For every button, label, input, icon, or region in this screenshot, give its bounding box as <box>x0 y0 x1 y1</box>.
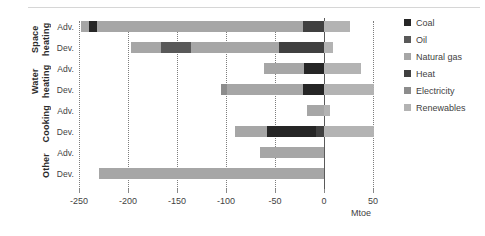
bar-segment <box>227 84 303 95</box>
bar-segment <box>161 42 190 53</box>
legend-item: Electricity <box>404 82 484 99</box>
bar-segment <box>97 21 304 32</box>
chart-legend: CoalOilNatural gasHeatElectricityRenewab… <box>404 14 484 116</box>
legend-swatch-icon <box>404 70 411 77</box>
row-label: Dev. <box>40 169 74 179</box>
bar-segment <box>324 63 361 74</box>
tick-mark <box>128 189 129 193</box>
bar-segment <box>81 21 89 32</box>
legend-swatch-icon <box>404 53 411 60</box>
bar-segment <box>303 84 324 95</box>
bar-row <box>79 147 373 158</box>
x-tick-label: -250 <box>59 196 99 206</box>
tick-mark <box>226 189 227 193</box>
bar-segment <box>131 42 161 53</box>
legend-label: Renewables <box>416 103 466 113</box>
row-label: Dev. <box>40 127 74 137</box>
legend-item: Heat <box>404 65 484 82</box>
legend-swatch-icon <box>404 19 411 26</box>
bar-segment <box>279 42 324 53</box>
bar-segment <box>316 126 324 137</box>
row-label: Adv. <box>40 22 74 32</box>
row-label: Dev. <box>40 43 74 53</box>
bar-segment <box>89 21 97 32</box>
legend-label: Natural gas <box>416 52 462 62</box>
legend-swatch-icon <box>404 104 411 111</box>
bar-row <box>79 84 373 95</box>
row-label: Adv. <box>40 106 74 116</box>
bar-segment <box>324 126 374 137</box>
bar-segment <box>303 21 324 32</box>
tick-mark <box>373 189 374 193</box>
bar-segment <box>324 84 374 95</box>
bar-row <box>79 21 373 32</box>
chart-container: Space heatingAdv.Dev.Water heatingAdv.De… <box>0 0 485 236</box>
row-label: Adv. <box>40 148 74 158</box>
legend-item: Natural gas <box>404 48 484 65</box>
legend-label: Heat <box>416 69 435 79</box>
x-tick-label: -150 <box>157 196 197 206</box>
bar-segment <box>260 147 324 158</box>
bar-segment <box>264 63 304 74</box>
plot-area <box>79 21 373 189</box>
bar-row <box>79 168 373 179</box>
bar-segment <box>304 63 324 74</box>
bar-segment <box>324 105 330 116</box>
x-tick-label: -100 <box>206 196 246 206</box>
bar-row <box>79 126 373 137</box>
x-tick-label: -50 <box>255 196 295 206</box>
x-tick-label: -200 <box>108 196 148 206</box>
x-axis-title: Mtoe <box>351 208 371 218</box>
tick-mark <box>177 189 178 193</box>
row-label: Adv. <box>40 64 74 74</box>
legend-swatch-icon <box>404 87 411 94</box>
bar-segment <box>191 42 279 53</box>
legend-swatch-icon <box>404 36 411 43</box>
legend-label: Oil <box>416 35 427 45</box>
tick-mark <box>275 189 276 193</box>
bar-row <box>79 42 373 53</box>
bar-row <box>79 63 373 74</box>
bar-segment <box>324 21 350 32</box>
bar-segment <box>324 42 333 53</box>
legend-item: Renewables <box>404 99 484 116</box>
bar-segment <box>99 168 324 179</box>
tick-mark <box>324 189 325 193</box>
legend-label: Electricity <box>416 86 455 96</box>
tick-mark <box>79 189 80 193</box>
legend-item: Oil <box>404 31 484 48</box>
x-tick-label: 50 <box>353 196 393 206</box>
bar-row <box>79 105 373 116</box>
bar-segment <box>267 126 316 137</box>
gridline <box>373 21 374 189</box>
top-divider <box>28 7 480 8</box>
bar-segment <box>235 126 267 137</box>
row-label: Dev. <box>40 85 74 95</box>
bar-segment <box>307 105 324 116</box>
legend-item: Coal <box>404 14 484 31</box>
legend-label: Coal <box>416 18 435 28</box>
x-tick-label: 0 <box>304 196 344 206</box>
